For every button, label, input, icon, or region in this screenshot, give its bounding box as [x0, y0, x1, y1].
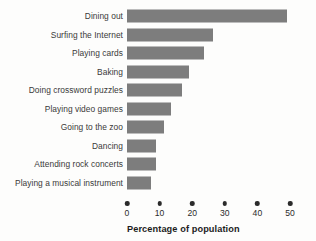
category-label: Surfing the Internet	[51, 30, 123, 40]
x-tick-label: 10	[155, 208, 165, 218]
bar	[127, 139, 156, 152]
x-tick-dot	[157, 201, 162, 206]
x-tick-label: 20	[187, 208, 197, 218]
x-tick-label: 30	[220, 208, 230, 218]
bar	[127, 121, 164, 134]
x-tick-dot	[288, 201, 293, 206]
bar-row: Dining out	[0, 7, 316, 26]
bar-row: Playing a musical instrument	[0, 174, 316, 193]
bar-row: Doing crossword puzzles	[0, 81, 316, 100]
x-tick-label: 0	[125, 208, 130, 218]
bar	[127, 158, 156, 171]
bar	[127, 102, 171, 115]
x-tick-label: 40	[253, 208, 263, 218]
category-label: Playing a musical instrument	[15, 178, 123, 188]
bar-row: Surfing the Internet	[0, 26, 316, 45]
bar	[127, 176, 151, 189]
x-tick-dot	[190, 201, 195, 206]
category-label: Dining out	[85, 11, 123, 21]
bar-row: Playing cards	[0, 44, 316, 63]
bar	[127, 10, 287, 23]
x-tick-dot	[223, 201, 228, 206]
bar-chart: Dining outSurfing the InternetPlaying ca…	[0, 0, 316, 241]
bar-row: Playing video games	[0, 100, 316, 119]
bar	[127, 47, 204, 60]
x-axis-title: Percentage of population	[127, 224, 240, 234]
category-label: Baking	[97, 67, 123, 77]
category-label: Doing crossword puzzles	[29, 85, 123, 95]
bar-row: Going to the zoo	[0, 118, 316, 137]
bar	[127, 65, 189, 78]
category-label: Playing cards	[72, 48, 123, 58]
bar-row: Dancing	[0, 137, 316, 156]
category-label: Going to the zoo	[61, 122, 123, 132]
bar	[127, 28, 213, 41]
x-tick-dot	[255, 201, 260, 206]
bar-row: Baking	[0, 63, 316, 82]
category-label: Dancing	[92, 141, 123, 151]
bar	[127, 84, 182, 97]
bar-row: Attending rock concerts	[0, 155, 316, 174]
category-label: Attending rock concerts	[34, 159, 123, 169]
category-label: Playing video games	[45, 104, 123, 114]
x-tick-dot	[125, 201, 130, 206]
x-tick-label: 50	[285, 208, 295, 218]
